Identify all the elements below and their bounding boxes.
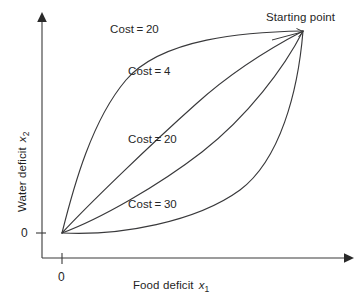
curve-cost-30 [62,31,303,233]
x-axis-title: Food deficitx1 [133,279,209,294]
equals-sign-1: = [134,23,146,35]
curve-cost-20-lower [62,31,303,233]
equals-sign-2: = [152,65,164,77]
equals-sign-4: = [152,198,164,210]
cost-value-4: 30 [164,198,177,210]
curve-group [62,31,303,233]
y-axis-title-text: Water deficit [16,147,28,212]
x-axis-variable: x1 [199,279,210,291]
cost-word-2: Cost [128,65,152,77]
figure-container: Cost=20 Cost=4 Cost=20 Cost=30 Starting … [0,0,362,303]
cost-word-4: Cost [128,198,152,210]
label-cost-4: Cost=4 [128,66,170,78]
y-axis-variable: x2 [16,132,28,143]
label-cost-20-lower: Cost=20 [128,134,177,146]
starting-point-label: Starting point [266,12,335,24]
starting-point-leader [272,29,303,41]
x-axis-variable-subscript: 1 [205,284,210,294]
y-axis-origin-label: 0 [21,226,28,240]
curve-cost-20-upper [62,31,303,233]
cost-value-1: 20 [146,23,159,35]
chart-canvas [0,0,362,303]
curve-cost-4 [62,31,303,233]
x-axis-arrow-icon [344,253,354,263]
tick-group [36,233,62,264]
cost-word-1: Cost [110,23,134,35]
label-cost-20-upper: Cost=20 [110,24,159,36]
x-axis-origin-label: 0 [58,270,65,284]
y-axis-title: Water deficitx2 [16,132,31,212]
cost-word-3: Cost [128,133,152,145]
y-axis-arrow-icon [37,12,47,22]
equals-sign-3: = [152,133,164,145]
cost-value-2: 4 [164,65,171,77]
y-axis-variable-subscript: 2 [21,132,31,137]
axis-group [37,12,354,263]
starting-point-leader-line [272,32,302,40]
cost-value-3: 20 [164,133,177,145]
x-axis-title-text: Food deficit [133,279,194,291]
y-axis-variable-letter: x [16,136,28,142]
label-cost-30: Cost=30 [128,199,177,211]
